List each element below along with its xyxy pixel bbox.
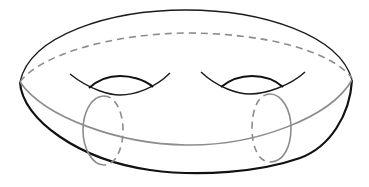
- right-hole-upper-arc: [221, 76, 283, 87]
- outer-silhouette-top: [20, 10, 352, 82]
- left-hole-upper-arc: [89, 76, 153, 88]
- outer-silhouette-bottom: [20, 80, 352, 173]
- right-meridian-back: [252, 94, 270, 162]
- right-meridian-front: [270, 94, 291, 162]
- left-meridian-back: [104, 96, 123, 165]
- front-equator: [20, 80, 352, 145]
- double-torus-diagram: [0, 0, 369, 187]
